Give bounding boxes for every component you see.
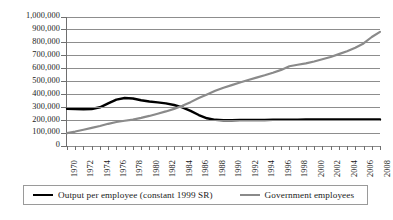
x-axis-tick-mark [347, 146, 348, 150]
x-axis-tick-label: 1984 [186, 160, 194, 177]
x-axis-tick-mark [364, 146, 365, 150]
legend-item-government-employees: Government employees [240, 190, 355, 200]
plot-wrapper: 1,000,000900,000800,000700,000600,000500… [0, 0, 393, 176]
x-axis-tick-mark [281, 146, 282, 150]
x-axis-tick-label: 2004 [351, 160, 359, 177]
x-axis-tick-label: 1980 [153, 160, 161, 177]
gridline [67, 107, 380, 108]
x-axis-tick-mark [158, 146, 159, 150]
gridline [67, 133, 380, 134]
x-axis-tick-label: 2008 [384, 160, 392, 177]
x-axis-tick-label: 2002 [334, 160, 342, 177]
gridline [67, 94, 380, 95]
y-axis-tick-label: 300,000 [32, 103, 60, 111]
legend-label-output-per-employee: Output per employee (constant 1999 SR) [58, 190, 213, 200]
x-axis-tick-mark [116, 146, 117, 150]
x-axis-tick-mark [125, 146, 126, 150]
chart-legend: Output per employee (constant 1999 SR) G… [23, 185, 368, 205]
y-axis-tick-label: 700,000 [32, 51, 60, 59]
x-axis-tick-label: 1994 [268, 160, 276, 177]
x-axis-tick-mark [380, 146, 381, 150]
x-axis-tick-label: 1990 [235, 160, 243, 177]
x-axis-tick-label: 1976 [120, 160, 128, 177]
y-axis-tick-label: 1,000,000 [26, 12, 60, 20]
x-axis-tick-mark [265, 146, 266, 150]
y-axis-tick-mark [61, 29, 66, 30]
x-axis-tick-label: 1998 [301, 160, 309, 177]
legend-item-output-per-employee: Output per employee (constant 1999 SR) [33, 190, 213, 200]
x-axis-tick-label: 1970 [71, 160, 79, 177]
x-axis-tick-mark [108, 146, 109, 150]
x-axis-tick-label: 1988 [219, 160, 227, 177]
x-axis-tick-mark [191, 146, 192, 150]
y-axis-labels: 1,000,000900,000800,000700,000600,000500… [0, 0, 64, 150]
x-axis-tick-mark [83, 146, 84, 150]
x-axis-tick-mark [240, 146, 241, 150]
x-axis-tick-mark [339, 146, 340, 150]
x-axis-tick-mark [92, 146, 93, 150]
x-axis-tick-mark [174, 146, 175, 150]
x-axis-tick-mark [141, 146, 142, 150]
series-line [67, 98, 380, 120]
x-axis-tick-mark [314, 146, 315, 150]
gray-line-swatch-icon [240, 194, 260, 197]
x-axis-tick-mark [133, 146, 134, 150]
x-axis-tick-mark [306, 146, 307, 150]
black-line-swatch-icon [33, 194, 53, 197]
x-axis-tick-label: 1982 [169, 160, 177, 177]
x-axis-tick-mark [355, 146, 356, 150]
x-axis-tick-mark [298, 146, 299, 150]
x-axis-tick-mark [100, 146, 101, 150]
gridline [67, 29, 380, 30]
x-axis-labels: 1970197219741976197819801982198419861988… [0, 150, 393, 180]
y-axis-tick-mark [61, 42, 66, 43]
gridline [67, 120, 380, 121]
x-axis-tick-label: 1974 [104, 160, 112, 177]
x-axis-tick-mark [67, 146, 68, 150]
x-axis-tick-mark [149, 146, 150, 150]
x-axis-tick-mark [289, 146, 290, 150]
x-axis-tick-mark [331, 146, 332, 150]
y-axis-tick-mark [61, 94, 66, 95]
x-axis-tick-label: 1972 [87, 160, 95, 177]
y-axis-tick-mark [61, 17, 66, 18]
y-axis-tick-label: 500,000 [32, 77, 60, 85]
y-axis-tick-mark [61, 55, 66, 56]
x-axis-tick-label: 1992 [252, 160, 260, 177]
y-axis-tick-label: 600,000 [32, 64, 60, 72]
y-axis-tick-label: 200,000 [32, 116, 60, 124]
x-axis-tick-mark [207, 146, 208, 150]
y-axis-tick-mark [61, 133, 66, 134]
y-axis-tick-mark [61, 146, 66, 147]
x-axis-tick-label: 1996 [285, 160, 293, 177]
y-axis-tick-mark [61, 107, 66, 108]
y-axis-tick-label: 400,000 [32, 90, 60, 98]
gridline [67, 55, 380, 56]
gridline [67, 68, 380, 69]
y-axis-tick-mark [61, 81, 66, 82]
y-axis-tick-label: 800,000 [32, 38, 60, 46]
x-axis-tick-mark [256, 146, 257, 150]
gridline [67, 81, 380, 82]
y-axis-tick-mark [61, 68, 66, 69]
x-axis-tick-label: 2006 [367, 160, 375, 177]
y-axis-tick-label: 900,000 [32, 25, 60, 33]
x-axis-tick-mark [182, 146, 183, 150]
line-chart: 1,000,000900,000800,000700,000600,000500… [0, 0, 393, 220]
x-axis-tick-mark [322, 146, 323, 150]
x-axis-tick-mark [166, 146, 167, 150]
plot-area [67, 17, 380, 146]
x-axis-tick-mark [199, 146, 200, 150]
x-axis-tick-mark [248, 146, 249, 150]
x-axis-tick-mark [372, 146, 373, 150]
x-axis-tick-mark [215, 146, 216, 150]
x-axis-tick-mark [224, 146, 225, 150]
x-axis-tick-label: 1978 [136, 160, 144, 177]
y-axis-tick-label: 0 [56, 141, 60, 149]
x-axis-tick-label: 2000 [318, 160, 326, 177]
y-axis-tick-label: 100,000 [32, 128, 60, 136]
gridline [67, 42, 380, 43]
x-axis-tick-label: 1986 [202, 160, 210, 177]
legend-label-government-employees: Government employees [265, 190, 355, 200]
x-axis-tick-mark [232, 146, 233, 150]
